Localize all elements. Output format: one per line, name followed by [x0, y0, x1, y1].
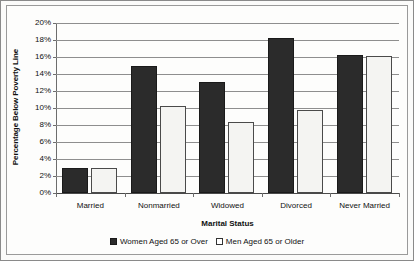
y-axis-tick-label: 10% — [21, 104, 51, 112]
bar-men[interactable] — [160, 106, 186, 193]
y-axis-tick-label: 0% — [21, 189, 51, 197]
legend-item[interactable]: Men Aged 65 or Older — [216, 237, 304, 246]
x-axis-tick-mark — [56, 193, 57, 197]
bar-women[interactable] — [62, 168, 88, 194]
x-axis-tick-label: Divorced — [262, 201, 331, 210]
bar-women[interactable] — [199, 82, 225, 193]
bars-layer: MarriedNonmarriedWidowedDivorcedNever Ma… — [56, 23, 399, 193]
x-axis-tick-mark — [399, 193, 400, 197]
y-axis-tick-label: 20% — [21, 19, 51, 27]
bar-men[interactable] — [91, 168, 117, 194]
legend-swatch-icon — [216, 238, 223, 245]
y-axis-tick-label: 4% — [21, 155, 51, 163]
legend-label: Men Aged 65 or Older — [226, 237, 304, 246]
bar-women[interactable] — [131, 66, 157, 194]
y-axis-tick-label: 6% — [21, 138, 51, 146]
plot-area: 20%18%16%14%12%10%8%6%4%2%0% MarriedNonm… — [56, 23, 399, 193]
x-axis-tick-label: Married — [56, 201, 125, 210]
x-axis-tick-label: Widowed — [193, 201, 262, 210]
x-axis-tick-mark — [262, 193, 263, 197]
bar-group: Nonmarried — [125, 23, 194, 193]
bar-group: Widowed — [193, 23, 262, 193]
bar-men[interactable] — [228, 122, 254, 193]
x-axis-tick-mark — [330, 193, 331, 197]
x-axis-tick-mark — [125, 193, 126, 197]
chart-container: Percentage Below Poverty Line 20%18%16%1… — [0, 0, 414, 261]
x-axis-tick-mark — [193, 193, 194, 197]
legend-label: Women Aged 65 or Over — [120, 237, 208, 246]
x-axis-line — [56, 193, 399, 194]
legend-item[interactable]: Women Aged 65 or Over — [110, 237, 208, 246]
bar-group: Divorced — [262, 23, 331, 193]
x-axis-title: Marital Status — [56, 219, 399, 228]
x-axis-tick-label: Never Married — [330, 201, 399, 210]
bar-men[interactable] — [366, 56, 392, 193]
chart-legend: Women Aged 65 or OverMen Aged 65 or Olde… — [1, 237, 413, 246]
y-axis-tick-label: 18% — [21, 36, 51, 44]
bar-group: Never Married — [330, 23, 399, 193]
legend-swatch-icon — [110, 238, 117, 245]
y-axis-tick-label: 14% — [21, 70, 51, 78]
bar-women[interactable] — [268, 38, 294, 193]
bar-men[interactable] — [297, 110, 323, 193]
bar-group: Married — [56, 23, 125, 193]
y-axis-tick-label: 12% — [21, 87, 51, 95]
y-axis-tick-label: 16% — [21, 53, 51, 61]
y-axis-tick-label: 8% — [21, 121, 51, 129]
x-axis-tick-label: Nonmarried — [125, 201, 194, 210]
y-axis-tick-label: 2% — [21, 172, 51, 180]
bar-women[interactable] — [337, 55, 363, 193]
